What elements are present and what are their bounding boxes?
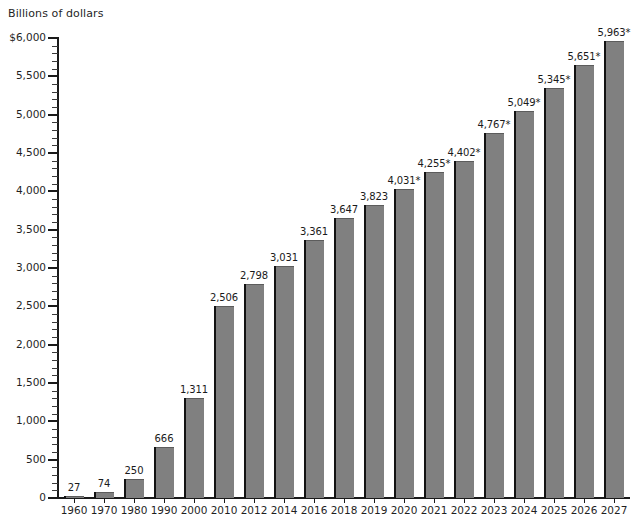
bar-top-edge bbox=[276, 266, 294, 267]
y-axis-tick-major bbox=[48, 75, 58, 77]
bar-left-edge bbox=[334, 218, 336, 498]
x-axis-tick-label: 2023 bbox=[481, 504, 508, 516]
bar: 4,402* bbox=[454, 161, 474, 498]
bar-left-edge bbox=[274, 266, 276, 498]
y-axis-tick-major bbox=[48, 420, 58, 422]
x-axis-tick bbox=[104, 499, 105, 503]
bar-top-edge bbox=[66, 496, 84, 497]
y-axis-tick-minor bbox=[52, 406, 58, 407]
y-axis-tick-major bbox=[48, 497, 58, 499]
y-axis-tick-minor bbox=[52, 214, 58, 215]
bar-value-label: 3,361 bbox=[300, 226, 328, 237]
x-axis-tick bbox=[74, 499, 75, 503]
bar: 74 bbox=[94, 492, 114, 498]
x-axis-tick bbox=[224, 499, 225, 503]
bar-left-edge bbox=[184, 398, 186, 499]
bar-value-label: 5,049* bbox=[507, 97, 540, 108]
x-axis-tick bbox=[554, 499, 555, 503]
y-axis-tick-minor bbox=[52, 337, 58, 338]
bar-face bbox=[156, 447, 174, 498]
bar-value-label: 3,647 bbox=[330, 204, 358, 215]
y-axis-tick-label: 0 bbox=[0, 491, 46, 503]
y-axis-tick-label: 5,500 bbox=[0, 69, 46, 81]
y-axis-tick-minor bbox=[52, 444, 58, 445]
y-axis-tick-minor bbox=[52, 329, 58, 330]
bar: 4,767* bbox=[484, 133, 504, 498]
bar: 250 bbox=[124, 479, 144, 498]
bar-value-label: 1,311 bbox=[180, 384, 208, 395]
x-axis-tick bbox=[494, 499, 495, 503]
bar-left-edge bbox=[574, 65, 576, 498]
bar-face bbox=[126, 479, 144, 498]
bar: 3,361 bbox=[304, 240, 324, 498]
bar: 3,823 bbox=[364, 205, 384, 498]
y-axis-tick-minor bbox=[52, 322, 58, 323]
x-axis-tick-label: 2027 bbox=[601, 504, 628, 516]
bar-face bbox=[186, 398, 204, 499]
bar-left-edge bbox=[244, 284, 246, 499]
bar: 2,506 bbox=[214, 306, 234, 498]
bar-face bbox=[516, 111, 534, 498]
bar-face bbox=[426, 172, 444, 498]
bar-top-edge bbox=[426, 172, 444, 173]
y-axis-tick-major bbox=[48, 459, 58, 461]
y-axis-tick-label: 3,000 bbox=[0, 261, 46, 273]
x-axis-tick-label: 2012 bbox=[241, 504, 268, 516]
y-axis-tick-minor bbox=[52, 138, 58, 139]
bar: 5,049* bbox=[514, 111, 534, 498]
y-axis-labels: $6,0005,5005,0004,5004,0003,5003,0002,50… bbox=[0, 0, 46, 522]
y-axis-tick-minor bbox=[52, 84, 58, 85]
bar-value-label: 5,345* bbox=[537, 74, 570, 85]
y-axis-tick-label: 4,000 bbox=[0, 184, 46, 196]
y-axis-tick-major bbox=[48, 267, 58, 269]
bar-top-edge bbox=[546, 88, 564, 89]
x-axis-tick bbox=[464, 499, 465, 503]
bar-left-edge bbox=[604, 41, 606, 498]
y-axis-tick-major bbox=[48, 190, 58, 192]
x-axis-tick bbox=[524, 499, 525, 503]
y-axis-tick-label: 5,000 bbox=[0, 108, 46, 120]
y-axis-tick-label: $6,000 bbox=[0, 31, 46, 43]
bar-top-edge bbox=[246, 284, 264, 285]
y-axis-tick-major bbox=[48, 229, 58, 231]
bar-top-edge bbox=[186, 398, 204, 399]
y-axis-tick-major bbox=[48, 344, 58, 346]
bar-value-label: 27 bbox=[68, 482, 81, 493]
bar-top-edge bbox=[126, 479, 144, 480]
bar: 1,311 bbox=[184, 398, 204, 499]
y-axis-tick-minor bbox=[52, 92, 58, 93]
bar-left-edge bbox=[364, 205, 366, 498]
bar-value-label: 250 bbox=[125, 465, 144, 476]
y-axis-tick-label: 1,500 bbox=[0, 376, 46, 388]
x-axis-tick-label: 2026 bbox=[571, 504, 598, 516]
y-axis-tick-label: 500 bbox=[0, 453, 46, 465]
bar: 27 bbox=[64, 496, 84, 498]
y-axis-tick-minor bbox=[52, 222, 58, 223]
y-axis-tick-minor bbox=[52, 437, 58, 438]
y-axis-tick-minor bbox=[52, 452, 58, 453]
bar-face bbox=[486, 133, 504, 498]
x-axis-tick bbox=[584, 499, 585, 503]
bar: 5,963* bbox=[604, 41, 624, 498]
y-axis-tick-minor bbox=[52, 360, 58, 361]
bar-value-label: 5,651* bbox=[567, 51, 600, 62]
y-axis-tick-minor bbox=[52, 176, 58, 177]
x-axis-tick-label: 1990 bbox=[151, 504, 178, 516]
y-axis-tick-label: 2,500 bbox=[0, 299, 46, 311]
x-axis-tick-label: 2024 bbox=[511, 504, 538, 516]
y-axis-tick-label: 4,500 bbox=[0, 146, 46, 158]
x-axis-tick-label: 2010 bbox=[211, 504, 238, 516]
bar-value-label: 666 bbox=[155, 433, 174, 444]
y-axis-tick-minor bbox=[52, 375, 58, 376]
bar: 4,031* bbox=[394, 189, 414, 498]
bar-chart: Billions of dollars $6,0005,5005,0004,50… bbox=[0, 0, 632, 522]
x-axis-tick-label: 2016 bbox=[301, 504, 328, 516]
x-axis-tick bbox=[434, 499, 435, 503]
y-axis-tick-minor bbox=[52, 483, 58, 484]
y-axis-tick-minor bbox=[52, 99, 58, 100]
bar-face bbox=[576, 65, 594, 498]
y-axis-tick-minor bbox=[52, 168, 58, 169]
bar-face bbox=[546, 88, 564, 498]
bar: 3,647 bbox=[334, 218, 354, 498]
bar-value-label: 74 bbox=[98, 478, 111, 489]
